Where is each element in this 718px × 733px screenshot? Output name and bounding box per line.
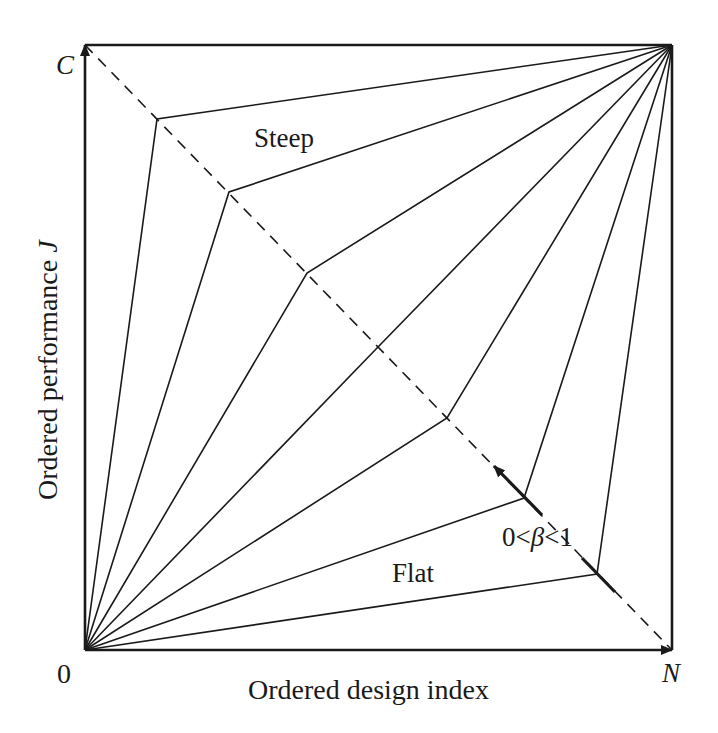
flat-annotation: Flat [392,560,434,587]
y-axis-label: Ordered performance J [34,240,62,500]
beta-lower-bound: 0< [502,522,531,552]
beta-range-annotation: 0<β<1 [502,524,573,551]
y-axis-end-label: C [56,52,74,79]
x-axis-end-label: N [662,660,680,687]
ordered-performance-curves-diagram: C 0 N Ordered design index Ordered perfo… [0,0,718,733]
y-axis-label-text: Ordered performance [32,253,63,500]
beta-direction-arrow [494,466,542,515]
x-axis-label: Ordered design index [248,676,489,704]
beta-symbol: β [531,522,544,552]
origin-label: 0 [57,660,71,688]
steep-annotation: Steep [254,125,314,152]
y-axis-variable: J [32,240,63,252]
diagram-canvas [0,0,718,733]
beta-upper-bound: <1 [544,522,573,552]
